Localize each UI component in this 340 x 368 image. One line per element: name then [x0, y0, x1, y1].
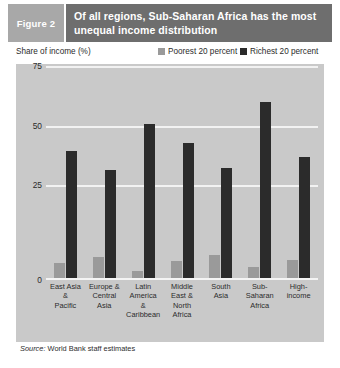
bar-poorest [54, 263, 65, 279]
bar-group [163, 66, 202, 279]
x-axis-label: MiddleEast &North Africa [163, 282, 202, 320]
legend-item-poorest: Poorest 20 percent [158, 47, 237, 56]
bar-richest [221, 168, 232, 280]
bar-groups [46, 66, 318, 279]
y-axis-caption: Share of income (%) [16, 47, 91, 56]
figure-header: Figure 2 Of all regions, Sub-Saharan Afr… [8, 4, 332, 42]
x-axis-label: Sub-SaharanAfrica [240, 282, 279, 320]
bar-group [46, 66, 85, 279]
y-tick-25: 25 [33, 180, 42, 190]
source-prefix: Source: [20, 344, 45, 353]
x-axis-label: High-income [279, 282, 318, 320]
y-tick-0: 0 [37, 275, 42, 285]
legend-label-richest: Richest 20 percent [250, 47, 318, 56]
bar-group [240, 66, 279, 279]
y-tick-75: 75 [33, 61, 42, 71]
x-axis-label: Europe &CentralAsia [85, 282, 124, 320]
y-axis-ticks: 75 50 25 0 [18, 66, 42, 279]
bar-group [279, 66, 318, 279]
bar-poorest [209, 255, 220, 280]
bar-poorest [287, 260, 298, 279]
bar-richest [144, 124, 155, 279]
source-text: World Bank staff estimates [45, 344, 135, 353]
legend-swatch-poorest-icon [158, 48, 165, 55]
x-axis-labels: East Asia&PacificEurope &CentralAsiaLati… [46, 282, 318, 320]
bar-richest [260, 102, 271, 279]
bar-richest [183, 143, 194, 279]
bar-richest [299, 157, 310, 279]
bar-group [85, 66, 124, 279]
bar-poorest [93, 257, 104, 279]
bar-group [201, 66, 240, 279]
bar-richest [66, 151, 77, 279]
legend-item-richest: Richest 20 percent [240, 47, 318, 56]
source-note: Source: World Bank staff estimates [20, 344, 135, 353]
figure-title: Of all regions, Sub-Saharan Africa has t… [66, 4, 332, 42]
y-tick-50: 50 [33, 121, 42, 131]
bar-group [124, 66, 163, 279]
x-axis-label: SouthAsia [201, 282, 240, 320]
figure-card: Figure 2 Of all regions, Sub-Saharan Afr… [8, 4, 332, 364]
axis-baseline [46, 278, 318, 280]
legend-row: Share of income (%) Poorest 20 percent R… [8, 46, 332, 62]
bar-richest [105, 170, 116, 279]
x-axis-label: East Asia&Pacific [46, 282, 85, 320]
chart-plot: 75 50 25 0 East Asia&PacificEurope &Cent… [8, 64, 332, 342]
x-axis-label: LatinAmerica& Caribbean [124, 282, 163, 320]
bar-poorest [171, 261, 182, 279]
legend-label-poorest: Poorest 20 percent [168, 47, 237, 56]
figure-number-tag: Figure 2 [8, 4, 64, 42]
legend-swatch-richest-icon [240, 48, 247, 55]
